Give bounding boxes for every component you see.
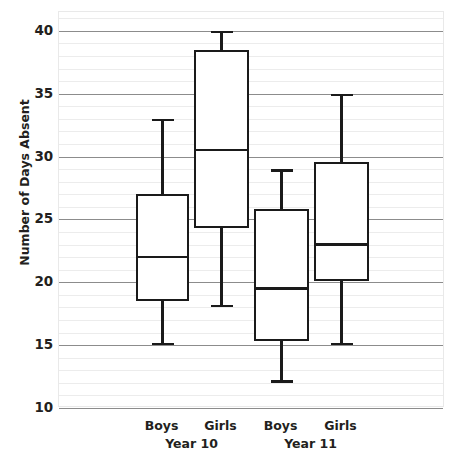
y-axis-title: Number of Days Absent [17, 93, 32, 273]
x-axis-group-label: Year 11 [261, 436, 361, 451]
median-line [254, 287, 309, 289]
box-iqr [254, 209, 309, 341]
whisker-cap-upper [271, 169, 293, 172]
gridline-minor [59, 245, 443, 246]
boxplot [254, 12, 309, 406]
gridline-major [59, 219, 443, 220]
whisker-cap-upper [152, 119, 174, 122]
gridline-minor [59, 207, 443, 208]
gridline-minor [59, 119, 443, 120]
gridline-minor [59, 370, 443, 371]
gridline-minor [59, 144, 443, 145]
gridline-minor [59, 270, 443, 271]
box-iqr [136, 194, 189, 301]
gridline-minor [59, 81, 443, 82]
whisker-lower [280, 341, 282, 382]
whisker-cap-lower [271, 380, 293, 383]
gridline-major [59, 345, 443, 346]
whisker-upper [220, 31, 222, 50]
median-line [314, 243, 369, 245]
median-line [136, 256, 189, 258]
gridline-major [59, 31, 443, 32]
gridline-minor [59, 307, 443, 308]
y-axis-tick-label: 15 [7, 336, 53, 352]
y-axis-tick-label: 20 [7, 273, 53, 289]
boxplot [136, 12, 189, 406]
whisker-cap-upper [331, 94, 353, 97]
gridline-minor [59, 295, 443, 296]
box-iqr [194, 50, 249, 229]
whisker-lower [340, 281, 342, 345]
box-iqr [314, 162, 369, 281]
y-axis-tick-label: 10 [7, 399, 53, 415]
boxplot [314, 12, 369, 406]
boxplot [194, 12, 249, 406]
whisker-lower [220, 228, 222, 307]
gridline-minor [59, 106, 443, 107]
gridline-minor [59, 131, 443, 132]
x-axis-group-label: Year 10 [142, 436, 242, 451]
gridline-minor [59, 257, 443, 258]
gridline-major [59, 408, 443, 409]
gridline-minor [59, 169, 443, 170]
boxplot-chart-page: 10152025303540 Number of Days Absent Boy… [0, 0, 463, 459]
gridline-minor [59, 232, 443, 233]
whisker-upper [280, 169, 282, 209]
gridline-major [59, 157, 443, 158]
gridline-minor [59, 333, 443, 334]
gridline-major [59, 94, 443, 95]
plot-area [58, 11, 444, 407]
gridline-minor [59, 18, 443, 19]
whisker-upper [161, 119, 163, 194]
median-line [194, 149, 249, 151]
gridline-minor [59, 395, 443, 396]
whisker-cap-lower [331, 343, 353, 346]
whisker-cap-upper [211, 31, 233, 34]
gridline-minor [59, 182, 443, 183]
whisker-lower [161, 301, 163, 345]
gridline-minor [59, 358, 443, 359]
gridline-minor [59, 43, 443, 44]
gridline-minor [59, 56, 443, 57]
gridline-minor [59, 194, 443, 195]
whisker-upper [340, 94, 342, 162]
x-axis-category-label: Girls [291, 418, 391, 433]
whisker-cap-lower [211, 305, 233, 308]
gridline-major [59, 282, 443, 283]
gridline-minor [59, 320, 443, 321]
gridline-minor [59, 69, 443, 70]
gridline-minor [59, 383, 443, 384]
y-axis-tick-label: 40 [7, 22, 53, 38]
whisker-cap-lower [152, 343, 174, 346]
